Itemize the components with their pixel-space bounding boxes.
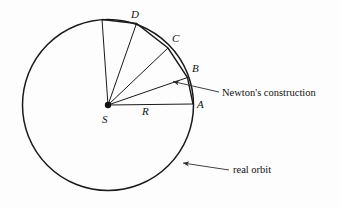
radius-SB bbox=[108, 78, 188, 106]
radius-SD bbox=[108, 24, 137, 106]
radius-SE bbox=[102, 20, 108, 106]
vertex-label-A: A bbox=[197, 99, 204, 110]
newtons-construction-leader bbox=[173, 82, 219, 93]
radius-SC bbox=[108, 48, 168, 105]
real-orbit-label: real orbit bbox=[233, 165, 271, 176]
radius-label-R: R bbox=[142, 106, 149, 117]
radius-SA bbox=[108, 104, 193, 105]
center-point-S bbox=[105, 102, 111, 108]
vertex-label-D: D bbox=[131, 9, 139, 20]
newtons-construction-label: Newton's construction bbox=[222, 88, 316, 99]
vertex-label-C: C bbox=[172, 33, 179, 44]
center-label-S: S bbox=[102, 114, 108, 125]
newton-orbit-diagram: D C B A S R Newton's construction real o… bbox=[0, 0, 340, 207]
real-orbit-leader bbox=[183, 163, 229, 170]
diagram-canvas bbox=[0, 0, 340, 207]
vertex-label-B: B bbox=[192, 63, 199, 74]
